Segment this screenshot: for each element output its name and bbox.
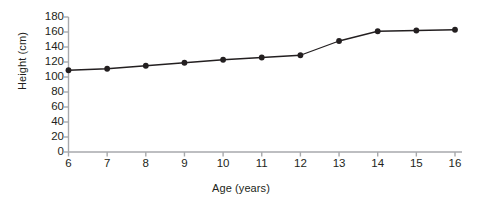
data-point bbox=[259, 55, 265, 61]
x-axis-tick-label: 16 bbox=[440, 158, 470, 170]
data-point bbox=[452, 27, 458, 33]
data-point bbox=[298, 52, 304, 58]
x-axis-tick-label: 11 bbox=[247, 158, 277, 170]
data-point-markers bbox=[66, 27, 458, 73]
data-point bbox=[66, 67, 72, 73]
data-point bbox=[220, 57, 226, 63]
axes bbox=[69, 17, 463, 152]
x-axis-tick-label: 6 bbox=[54, 158, 84, 170]
x-axis-tick-label: 8 bbox=[131, 158, 161, 170]
data-point bbox=[182, 60, 188, 66]
data-point bbox=[104, 66, 110, 72]
x-axis-tick-label: 9 bbox=[169, 158, 199, 170]
data-point bbox=[143, 63, 149, 69]
x-axis-tick-label: 12 bbox=[285, 158, 315, 170]
data-point bbox=[336, 38, 342, 44]
x-axis-tick-label: 15 bbox=[401, 158, 431, 170]
x-axis-tick-label: 7 bbox=[92, 158, 122, 170]
x-axis-tick-label: 10 bbox=[208, 158, 238, 170]
data-point bbox=[375, 28, 381, 34]
x-axis-tick-label: 14 bbox=[363, 158, 393, 170]
data-point bbox=[413, 28, 419, 34]
plot-area bbox=[0, 0, 482, 211]
data-line bbox=[69, 30, 456, 71]
x-axis-tick-label: 13 bbox=[324, 158, 354, 170]
line-chart: Height (cm) 020406080100120140160180 Age… bbox=[0, 0, 482, 211]
